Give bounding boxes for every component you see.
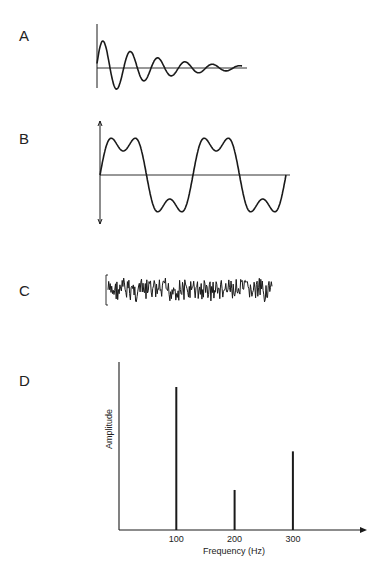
x-tick-labels: 100200300 [169,534,301,544]
figure-canvas: 100200300 Frequency (Hz) Amplitude [0,0,387,573]
spectrum-lines [176,387,293,530]
x-tick-100: 100 [169,534,184,544]
x-tick-200: 200 [227,534,242,544]
panel-c-noise-wave [106,275,272,305]
x-axis-label: Frequency (Hz) [203,546,265,556]
panel-c-scale-bracket [106,275,108,305]
x-tick-300: 300 [285,534,300,544]
panel-d-spectrum: 100200300 Frequency (Hz) Amplitude [104,362,367,556]
panel-c-curve [108,278,272,302]
y-axis-label: Amplitude [104,409,114,449]
panel-b-complex-wave [98,121,290,224]
panel-a-curve [97,41,242,89]
panel-a-damped-wave [97,24,247,89]
arrow-right-icon [360,527,367,533]
